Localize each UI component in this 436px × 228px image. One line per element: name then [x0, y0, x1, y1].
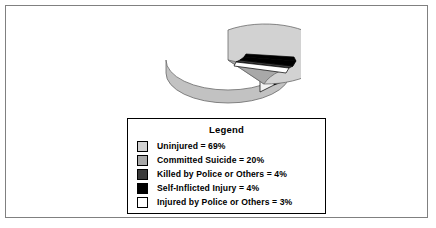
- chart-legend: Legend Uninjured = 69% Committed Suicide…: [127, 118, 326, 214]
- legend-label-committed-suicide: Committed Suicide = 20%: [157, 155, 264, 165]
- legend-item-list: Uninjured = 69% Committed Suicide = 20% …: [128, 139, 325, 209]
- chart-figure: Legend Uninjured = 69% Committed Suicide…: [0, 0, 436, 228]
- legend-swatch-injured-by-police: [137, 197, 148, 208]
- legend-item-self-inflicted: Self-Inflicted Injury = 4%: [128, 181, 325, 195]
- legend-item-committed-suicide: Committed Suicide = 20%: [128, 153, 325, 167]
- legend-item-injured-by-police: Injured by Police or Others = 3%: [128, 195, 325, 209]
- legend-label-uninjured: Uninjured = 69%: [157, 141, 226, 151]
- pie-chart-svg: [156, 16, 301, 106]
- legend-swatch-committed-suicide: [137, 155, 148, 166]
- legend-swatch-uninjured: [137, 141, 148, 152]
- legend-item-killed-by-police: Killed by Police or Others = 4%: [128, 167, 325, 181]
- figure-border: Legend Uninjured = 69% Committed Suicide…: [5, 5, 428, 218]
- legend-label-injured-by-police: Injured by Police or Others = 3%: [157, 197, 292, 207]
- legend-swatch-killed-by-police: [137, 169, 148, 180]
- legend-label-killed-by-police: Killed by Police or Others = 4%: [157, 169, 287, 179]
- legend-swatch-self-inflicted: [137, 183, 148, 194]
- pie-chart: [156, 16, 301, 106]
- legend-title: Legend: [128, 124, 325, 135]
- legend-item-uninjured: Uninjured = 69%: [128, 139, 325, 153]
- legend-label-self-inflicted: Self-Inflicted Injury = 4%: [157, 183, 259, 193]
